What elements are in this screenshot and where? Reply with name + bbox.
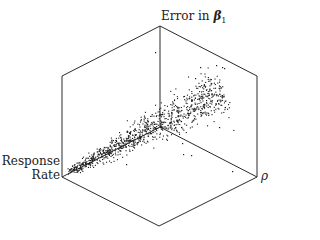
- data-point: [105, 156, 106, 157]
- data-point: [211, 79, 212, 80]
- data-point: [217, 83, 218, 84]
- data-point: [194, 99, 195, 100]
- data-point: [156, 139, 157, 140]
- data-point: [80, 165, 81, 166]
- data-point: [156, 130, 157, 131]
- data-point: [208, 105, 209, 106]
- data-point: [217, 76, 218, 77]
- data-point: [115, 153, 116, 154]
- data-point: [129, 149, 130, 150]
- data-point: [109, 152, 110, 153]
- data-point: [211, 83, 212, 84]
- data-point: [196, 88, 197, 89]
- data-point: [174, 94, 175, 95]
- data-point: [166, 128, 167, 129]
- data-point: [186, 107, 187, 108]
- data-point: [218, 108, 219, 109]
- data-point: [129, 140, 130, 141]
- data-point: [214, 121, 215, 122]
- data-point: [180, 111, 181, 112]
- data-point: [179, 124, 180, 125]
- data-point: [119, 150, 120, 151]
- data-point: [199, 91, 200, 92]
- data-point: [101, 156, 102, 157]
- data-point: [74, 172, 75, 173]
- data-point: [74, 165, 75, 166]
- data-point: [153, 148, 154, 149]
- data-point: [107, 158, 108, 159]
- data-point: [161, 125, 162, 126]
- data-point: [89, 156, 90, 157]
- data-point: [184, 113, 185, 114]
- data-point: [176, 130, 177, 131]
- data-point: [155, 131, 156, 132]
- data-point: [155, 137, 156, 138]
- data-point: [166, 139, 167, 140]
- data-point: [93, 156, 94, 157]
- data-point: [112, 151, 113, 152]
- data-point: [142, 132, 143, 133]
- data-point: [114, 150, 115, 151]
- data-point: [124, 141, 125, 142]
- outlier-point: [224, 68, 225, 69]
- data-point: [122, 148, 123, 149]
- data-point: [201, 73, 202, 74]
- data-point: [90, 164, 91, 165]
- data-point: [172, 123, 173, 124]
- data-point: [79, 162, 80, 163]
- data-point: [204, 74, 205, 75]
- data-point: [103, 164, 104, 165]
- data-point: [197, 124, 198, 125]
- data-point: [191, 122, 192, 123]
- data-point: [97, 156, 98, 157]
- data-point: [91, 159, 92, 160]
- data-point: [80, 168, 81, 169]
- data-point: [148, 128, 149, 129]
- data-point: [107, 150, 108, 151]
- data-point: [137, 124, 138, 125]
- data-point: [152, 124, 153, 125]
- data-point: [86, 164, 87, 165]
- data-point: [214, 112, 215, 113]
- data-point: [208, 77, 209, 78]
- data-point: [121, 139, 122, 140]
- data-point: [76, 172, 77, 173]
- data-point: [106, 156, 107, 157]
- data-point: [195, 98, 196, 99]
- data-point: [195, 103, 196, 104]
- data-point: [163, 122, 164, 123]
- data-point: [134, 137, 135, 138]
- data-point: [205, 112, 206, 113]
- data-point: [225, 101, 226, 102]
- data-point: [141, 144, 142, 145]
- data-point: [114, 144, 115, 145]
- data-point: [212, 100, 213, 101]
- data-point: [77, 172, 78, 173]
- data-point: [76, 168, 77, 169]
- data-point: [137, 138, 138, 139]
- data-point: [176, 106, 177, 107]
- data-point: [98, 157, 99, 158]
- data-point: [198, 109, 199, 110]
- data-point: [194, 108, 195, 109]
- data-point: [112, 141, 113, 142]
- data-point: [106, 152, 107, 153]
- data-point: [115, 154, 116, 155]
- data-point: [179, 107, 180, 108]
- data-point: [180, 116, 181, 117]
- data-point: [176, 111, 177, 112]
- data-point: [92, 156, 93, 157]
- data-point: [132, 140, 133, 141]
- data-point: [179, 132, 180, 133]
- data-point: [167, 106, 168, 107]
- data-point: [162, 124, 163, 125]
- data-point: [219, 82, 220, 83]
- data-point: [120, 143, 121, 144]
- data-point: [104, 152, 105, 153]
- data-point: [133, 146, 134, 147]
- data-point: [155, 113, 156, 114]
- data-point: [182, 128, 183, 129]
- data-point: [164, 110, 165, 111]
- data-point: [201, 85, 202, 86]
- data-point: [167, 135, 168, 136]
